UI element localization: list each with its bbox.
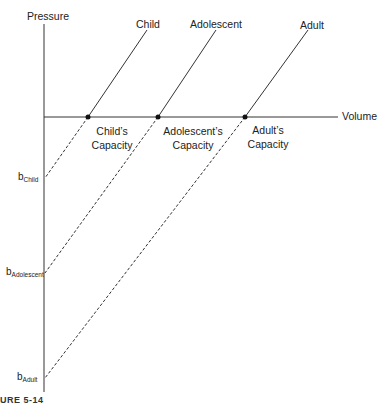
child-capacity-line2: Capacity — [84, 138, 140, 152]
adult-capacity-label: Adult’s Capacity — [240, 123, 296, 151]
child-capacity-label: Child’s Capacity — [84, 124, 140, 152]
adult-capacity-line1: Adult’s — [240, 123, 296, 137]
adult-capacity-line2: Capacity — [240, 137, 296, 151]
adolescent-curve-label: Adolescent — [190, 18, 242, 31]
figure-caption: URE 5-14 — [0, 395, 44, 405]
adolescent-line-solid — [158, 30, 216, 117]
b-child-label: bChild — [18, 171, 38, 183]
b-adult-sub: Adult — [23, 376, 38, 383]
b-adolescent-sub: Adolescent — [12, 271, 44, 278]
adult-capacity-point — [243, 115, 248, 120]
adolescent-capacity-point — [156, 115, 161, 120]
y-axis-label: Pressure — [27, 10, 69, 23]
adult-line-dashed — [45, 117, 245, 378]
adult-curve-label: Adult — [300, 19, 324, 32]
b-child-sub: Child — [24, 176, 39, 183]
adult-line-solid — [245, 30, 308, 117]
child-capacity-line1: Child’s — [84, 124, 140, 138]
child-capacity-point — [86, 115, 91, 120]
child-curve-label: Child — [136, 18, 160, 31]
b-adult-label: bAdult — [17, 371, 37, 383]
child-line-dashed — [45, 117, 88, 178]
b-adolescent-label: bAdolescent — [6, 266, 44, 278]
adolescent-capacity-label: Adolescent’s Capacity — [153, 124, 233, 152]
x-axis-label: Volume — [342, 110, 377, 123]
adolescent-capacity-line1: Adolescent’s — [153, 124, 233, 138]
adolescent-capacity-line2: Capacity — [153, 138, 233, 152]
child-line-solid — [88, 30, 147, 117]
